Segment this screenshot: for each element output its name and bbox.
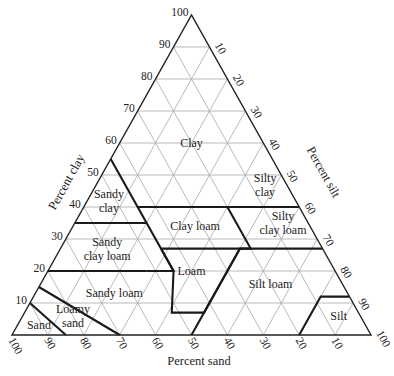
clay-tick-label: 30	[51, 230, 63, 242]
region-label-silt: Silt	[330, 309, 347, 323]
gridlines	[30, 47, 353, 335]
region-label-silt-loam: Silt loam	[249, 277, 293, 291]
silt-tick-label: 50	[285, 168, 301, 184]
region-label-sandy-loam: Sandy loam	[86, 286, 144, 300]
silt-tick-label: 100	[374, 328, 393, 349]
region-label-loamy-sand: Loamy	[56, 302, 90, 316]
clay-axis-title: Percent clay	[45, 151, 87, 212]
silt-tick-label: 40	[267, 136, 283, 152]
sand-tick-label: 30	[258, 335, 274, 351]
region-label-sandy-clay: clay	[99, 201, 119, 215]
silt-tick-label: 70	[320, 232, 336, 248]
soil-texture-triangle: 1020304050607080901001020304050607080901…	[0, 0, 394, 376]
region-label-silty-clay: Silty	[254, 171, 277, 185]
region-label-silty-clay: clay	[255, 185, 275, 199]
clay-tick-label: 50	[87, 166, 99, 178]
clay-tick-label: 10	[15, 294, 27, 306]
sand-tick-label: 20	[293, 335, 309, 351]
silt-tick-label: 10	[213, 40, 229, 56]
sand-tick-label: 100	[6, 335, 25, 356]
silt-tick-label: 30	[249, 104, 265, 120]
clay-tick-label: 80	[141, 70, 153, 82]
region-label-loamy-sand: sand	[62, 316, 84, 330]
sand-tick-label: 70	[114, 335, 130, 351]
silt-tick-label: 90	[356, 296, 372, 312]
region-label-loam: Loam	[178, 264, 207, 278]
region-label-sand: Sand	[27, 318, 51, 332]
clay-tick-label: 40	[69, 198, 81, 210]
sand-axis-title: Percent sand	[167, 354, 231, 368]
clay-tick-label: 90	[159, 38, 171, 50]
clay-tick-label: 100	[171, 6, 189, 18]
region-boundary	[192, 249, 251, 335]
clay-tick-label: 20	[33, 262, 45, 274]
region-label-silty-clay-loam: Silty	[272, 209, 295, 223]
sand-tick-label: 50	[186, 335, 202, 351]
region-label-silty-clay-loam: clay loam	[260, 223, 308, 237]
sand-tick-label: 80	[78, 335, 94, 351]
region-label-clay-loam: Clay loam	[170, 219, 220, 233]
clay-tick-label: 60	[105, 134, 117, 146]
silt-tick-label: 80	[338, 264, 354, 280]
sand-tick-label: 60	[150, 335, 166, 351]
silt-axis-title: Percent silt	[304, 144, 344, 200]
region-label-sandy-clay: Sandy	[94, 187, 124, 201]
sand-tick-label: 90	[42, 335, 58, 351]
region-label-sandy-clay-loam: clay loam	[84, 249, 132, 263]
region-label-sandy-clay-loam: Sandy	[92, 235, 122, 249]
silt-tick-label: 60	[302, 200, 318, 216]
sand-tick-label: 40	[222, 335, 238, 351]
region-label-clay: Clay	[180, 136, 203, 150]
clay-tick-label: 70	[123, 102, 135, 114]
sand-tick-label: 10	[329, 335, 345, 351]
silt-tick-label: 20	[231, 72, 247, 88]
